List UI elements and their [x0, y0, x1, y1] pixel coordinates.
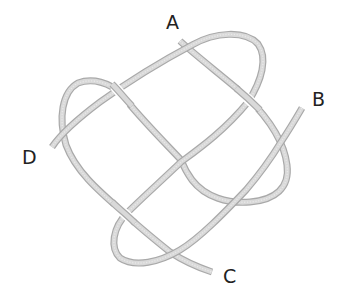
label-b: B — [312, 90, 325, 109]
label-d: D — [22, 148, 37, 167]
strand-a-c — [62, 41, 287, 272]
knot-diagram — [0, 0, 338, 296]
label-c: C — [223, 267, 236, 286]
label-a: A — [166, 13, 179, 32]
strand-b-d — [52, 34, 302, 263]
